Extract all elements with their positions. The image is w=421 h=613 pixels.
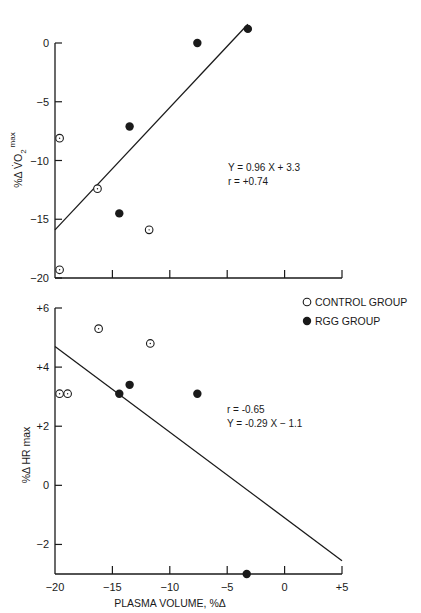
y-tick-label: +6	[36, 302, 49, 314]
control-point-center	[98, 328, 99, 329]
scatter-charts: 0−5−10−15−20%Δ V̇O2maxY = 0.96 X + 3.3r …	[0, 0, 421, 613]
y-tick-label: +4	[36, 361, 49, 373]
rgg-point	[193, 39, 201, 47]
figure: 0−5−10−15−20%Δ V̇O2maxY = 0.96 X + 3.3r …	[0, 0, 421, 613]
regression-annotation: Y = 0.96 X + 3.3	[228, 162, 301, 173]
control-point-center	[97, 188, 98, 189]
regression-annotation: Y = -0.29 X − 1.1	[227, 418, 303, 429]
hr-panel: +6+4+20−2−20−15−10−50+5PLASMA VOLUME, %Δ…	[20, 302, 348, 609]
rgg-point	[193, 390, 201, 398]
x-tick-label: 0	[282, 581, 288, 593]
rgg-point	[115, 209, 123, 217]
y-tick-label: 0	[43, 479, 49, 491]
legend: CONTROL GROUPRGG GROUP	[303, 296, 408, 327]
y-tick-label: 0	[43, 37, 49, 49]
control-point-center	[59, 137, 60, 138]
x-tick-label: +5	[336, 581, 349, 593]
y-tick-label: −15	[30, 213, 49, 225]
vo2-panel: 0−5−10−15−20%Δ V̇O2maxY = 0.96 X + 3.3r …	[8, 24, 342, 284]
y-tick-label: −20	[30, 272, 49, 284]
y-axis-label: %Δ HR max	[20, 426, 32, 483]
x-tick-label: −5	[221, 581, 234, 593]
control-point-center	[150, 343, 151, 344]
rgg-point	[244, 25, 252, 33]
y-tick-label: −5	[36, 96, 49, 108]
legend-filled-circle-icon	[303, 317, 311, 325]
x-tick-label: −20	[46, 581, 65, 593]
x-axis-label: PLASMA VOLUME, %Δ	[114, 597, 225, 609]
regression-annotation: r = +0.74	[228, 176, 268, 187]
regression-annotation: r = -0.65	[227, 404, 265, 415]
legend-label: RGG GROUP	[315, 315, 380, 327]
legend-open-circle-icon	[303, 298, 311, 306]
y-tick-label: +2	[36, 420, 49, 432]
x-tick-label: −10	[160, 581, 179, 593]
rgg-point	[125, 122, 133, 130]
control-point-center	[59, 393, 60, 394]
y-tick-label: −10	[30, 155, 49, 167]
control-point-center	[59, 269, 60, 270]
rgg-point	[115, 390, 123, 398]
rgg-point	[243, 570, 251, 578]
rgg-point	[125, 381, 133, 389]
y-tick-label: −2	[36, 538, 49, 550]
control-point-center	[148, 229, 149, 230]
x-tick-label: −15	[103, 581, 122, 593]
control-point-center	[67, 393, 68, 394]
legend-label: CONTROL GROUP	[315, 296, 407, 308]
y-axis-label: %Δ V̇O2max	[8, 132, 28, 187]
regression-line	[55, 346, 342, 560]
regression-line	[55, 24, 248, 230]
